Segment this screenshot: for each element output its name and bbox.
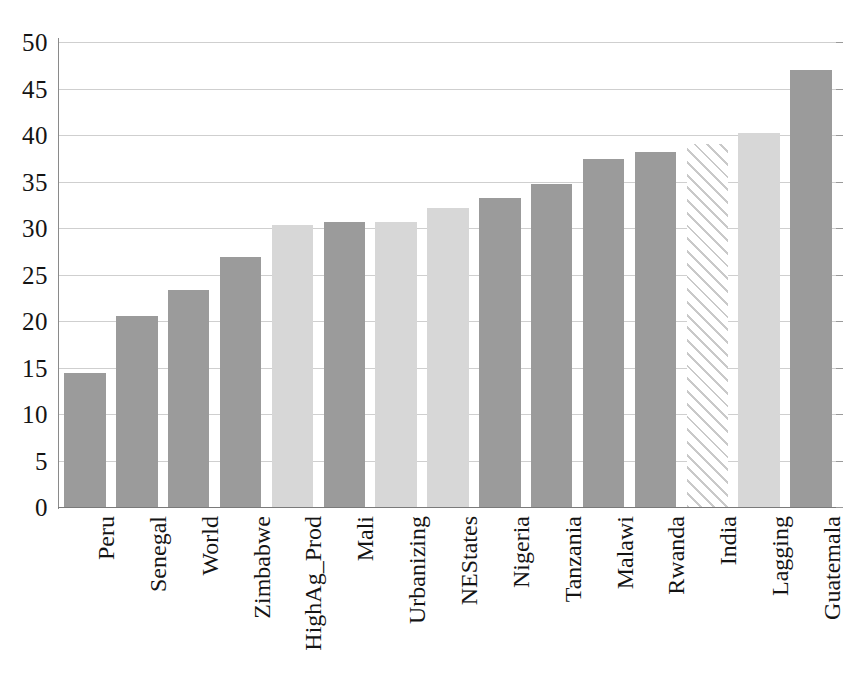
bar[interactable] bbox=[479, 198, 520, 507]
bar[interactable] bbox=[635, 152, 676, 507]
bar[interactable] bbox=[427, 208, 468, 507]
bars-group bbox=[59, 42, 837, 507]
bar[interactable] bbox=[531, 184, 572, 507]
right-axis-tick bbox=[836, 42, 843, 43]
right-axis-tick bbox=[836, 414, 843, 415]
x-axis-labels: PeruSenegalWorldZimbabweHighAg_ProdMaliU… bbox=[59, 510, 837, 675]
x-axis-label: Peru bbox=[94, 516, 118, 560]
x-axis-label: Senegal bbox=[146, 516, 170, 592]
bar[interactable] bbox=[168, 290, 209, 507]
x-axis-label: Mali bbox=[353, 516, 377, 561]
x-axis-line bbox=[58, 507, 837, 508]
right-axis-ticks bbox=[836, 42, 844, 508]
bar[interactable] bbox=[583, 159, 624, 507]
x-axis-label: Urbanizing bbox=[405, 516, 429, 624]
bar[interactable] bbox=[272, 225, 313, 507]
right-axis-tick bbox=[836, 89, 843, 90]
x-axis-label: Lagging bbox=[768, 516, 792, 596]
bar[interactable] bbox=[220, 257, 261, 507]
x-axis-label: Rwanda bbox=[664, 516, 688, 595]
bar[interactable] bbox=[64, 373, 105, 507]
y-axis: 50454035302520151050 bbox=[0, 0, 58, 675]
y-tick-label: 30 bbox=[22, 216, 48, 241]
y-tick-label: 0 bbox=[35, 495, 48, 520]
right-axis-tick bbox=[836, 275, 843, 276]
y-tick-label: 10 bbox=[22, 402, 48, 427]
x-axis-label: Malawi bbox=[613, 516, 637, 589]
y-tick-label: 25 bbox=[22, 262, 48, 287]
bar[interactable] bbox=[687, 144, 728, 507]
x-axis-label: Zimbabwe bbox=[250, 516, 274, 619]
right-axis-tick bbox=[836, 321, 843, 322]
bar[interactable] bbox=[375, 222, 416, 507]
x-axis-label: Tanzania bbox=[561, 516, 585, 602]
right-axis-tick bbox=[836, 368, 843, 369]
y-tick-label: 40 bbox=[22, 123, 48, 148]
right-axis-tick bbox=[836, 228, 843, 229]
x-axis-label: Nigeria bbox=[509, 516, 533, 588]
y-tick-label: 50 bbox=[22, 30, 48, 55]
right-axis-tick bbox=[836, 507, 843, 508]
x-axis-label: NEStates bbox=[457, 516, 481, 605]
right-axis-tick bbox=[836, 461, 843, 462]
y-tick-label: 35 bbox=[22, 169, 48, 194]
y-tick-label: 20 bbox=[22, 309, 48, 334]
y-tick-label: 15 bbox=[22, 355, 48, 380]
y-tick-label: 5 bbox=[35, 448, 48, 473]
right-axis-tick bbox=[836, 182, 843, 183]
x-axis-label: Guatemala bbox=[820, 516, 844, 620]
x-axis-label: World bbox=[198, 516, 222, 575]
bar[interactable] bbox=[116, 316, 157, 507]
bar[interactable] bbox=[790, 70, 831, 507]
plot-area bbox=[59, 42, 837, 507]
bar[interactable] bbox=[738, 133, 779, 507]
x-axis-label: India bbox=[716, 516, 740, 565]
right-axis-tick bbox=[836, 135, 843, 136]
x-axis-label: HighAg_Prod bbox=[301, 516, 325, 651]
bar[interactable] bbox=[324, 222, 365, 507]
bar-chart: 50454035302520151050 PeruSenegalWorldZim… bbox=[0, 0, 861, 675]
y-tick-label: 45 bbox=[22, 76, 48, 101]
